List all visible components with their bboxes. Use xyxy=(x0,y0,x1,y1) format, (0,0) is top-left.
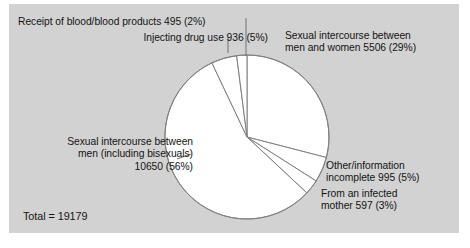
pie-label-injecting: Injecting drug use 936 (5%) xyxy=(18,32,268,44)
pie-label-heterosexual: Sexual intercourse between men and women… xyxy=(285,30,457,55)
pie-label-mother: From an infected mother 597 (3%) xyxy=(321,188,459,213)
pie-label-blood: Receipt of blood/blood products 495 (2%) xyxy=(18,16,268,28)
pie-chart-figure: Receipt of blood/blood products 495 (2%)… xyxy=(9,4,459,233)
pie-label-other: Other/information incomplete 995 (5%) xyxy=(326,160,459,185)
pie-total-label: Total = 19179 xyxy=(23,210,183,222)
pie-label-msm: Sexual intercourse between men (includin… xyxy=(13,136,193,173)
